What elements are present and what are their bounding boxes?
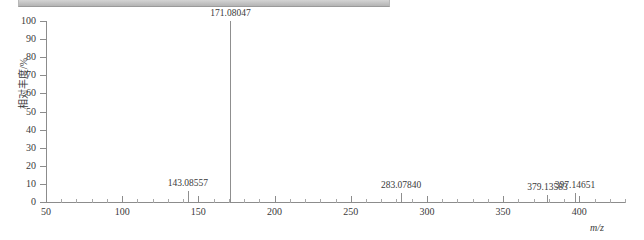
y-axis-tick-label: 20 [2, 161, 36, 171]
y-axis-tick-label: 70 [2, 70, 36, 80]
peak-label: 171.08047 [195, 8, 265, 18]
y-axis-tick-label: 50 [2, 107, 36, 117]
y-axis-tick-label: 30 [2, 143, 36, 153]
x-axis-tick-label: 250 [331, 206, 371, 217]
y-axis-tick-label: 80 [2, 52, 36, 62]
x-axis-title: m/z [590, 222, 604, 233]
peak-label: 397.14651 [540, 180, 610, 190]
mass-spectrum-chart: 相对丰度/% m/z 0102030405060708090100 501001… [0, 0, 644, 240]
spectrum-peak [401, 193, 402, 202]
x-axis-tick-minor [625, 199, 626, 203]
y-axis-tick-label: 10 [2, 179, 36, 189]
y-axis-tick-label: 40 [2, 125, 36, 135]
x-axis-tick-label: 200 [255, 206, 295, 217]
peak-label: 143.08557 [153, 178, 223, 188]
x-axis-tick-label: 50 [26, 206, 66, 217]
spectrum-peak [547, 195, 548, 202]
x-axis-tick-label: 300 [407, 206, 447, 217]
spectrum-peak [188, 191, 189, 202]
y-axis-tick-label: 60 [2, 88, 36, 98]
y-axis-tick-label: 90 [2, 34, 36, 44]
x-axis-tick-label: 100 [102, 206, 142, 217]
spectrum-peak [230, 21, 231, 202]
x-axis-tick-label: 350 [483, 206, 523, 217]
x-axis-tick-label: 400 [559, 206, 599, 217]
spectrum-peak [575, 193, 576, 202]
y-axis-tick-label: 100 [2, 16, 36, 26]
plot-area: 143.08557171.08047283.07840379.13583397.… [46, 21, 625, 202]
x-axis-tick-label: 150 [178, 206, 218, 217]
peak-label: 283.07840 [366, 180, 436, 190]
